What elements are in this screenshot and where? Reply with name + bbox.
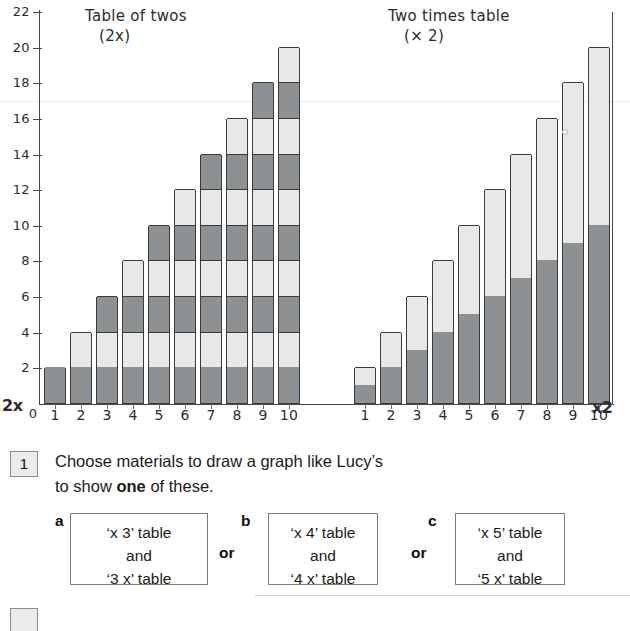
x-axis-label-panel1-6: 6 <box>174 406 196 424</box>
bar-segment <box>71 332 91 368</box>
bar-segment <box>253 367 273 403</box>
bar-panel1-x2 <box>70 333 92 404</box>
bar-segment-lower <box>537 260 557 403</box>
bar-panel2-x1 <box>354 368 376 404</box>
bar-panel2-x5 <box>458 226 480 404</box>
x-axis-label-panel1-3: 3 <box>96 406 118 424</box>
option-a-line2: and <box>71 544 207 567</box>
bar-segment-upper <box>537 118 557 261</box>
option-b-line3: ‘4 x’ table <box>269 567 377 590</box>
bar-segment <box>227 332 247 368</box>
x-axis-label-panel1-5: 5 <box>148 406 170 424</box>
bar-segment <box>149 367 169 403</box>
option-a-line3: ‘3 x’ table <box>71 567 207 590</box>
bar-panel2-x6 <box>484 190 506 404</box>
option-c-box[interactable]: ‘x 5’ table and ‘5 x’ table <box>455 513 565 585</box>
or-separator-2: or <box>411 544 427 562</box>
bar-segment <box>175 332 195 368</box>
bar-segment <box>253 154 273 190</box>
option-b-box[interactable]: ‘x 4’ table and ‘4 x’ table <box>268 513 378 585</box>
bar-segment-lower <box>589 225 609 403</box>
bar-segment <box>279 118 299 154</box>
bar-segment <box>201 367 221 403</box>
x-axis-label-panel2-10: 10 <box>588 406 610 424</box>
bar-panel2-x4 <box>432 261 454 404</box>
bar-segment <box>201 260 221 296</box>
bar-segment <box>253 296 273 332</box>
bar-segment <box>149 296 169 332</box>
bar-segment <box>123 260 143 296</box>
bar-segment-upper <box>355 367 375 385</box>
question-block: 1 Choose materials to draw a graph like … <box>0 445 630 616</box>
question-text-emphasis: one <box>116 477 145 495</box>
bar-segment <box>279 47 299 83</box>
left-axis-tag: 2x <box>2 396 22 415</box>
bar-segment <box>227 225 247 261</box>
bar-panel2-x8 <box>536 119 558 404</box>
option-a-box[interactable]: ‘x 3’ table and ‘3 x’ table <box>70 513 208 585</box>
question-text-line1: Choose materials to draw a graph like Lu… <box>55 452 383 470</box>
x-axis-label-panel1-9: 9 <box>252 406 274 424</box>
bar-segment <box>279 296 299 332</box>
option-b-line1: ‘x 4’ table <box>269 521 377 544</box>
x-axis-label-panel2-5: 5 <box>458 406 480 424</box>
x-axis-label-panel2-3: 3 <box>406 406 428 424</box>
question-number-badge: 1 <box>10 451 38 477</box>
next-question-number-badge <box>10 608 38 631</box>
question-text: Choose materials to draw a graph like Lu… <box>55 449 515 499</box>
bar-panel1-x3 <box>96 297 118 404</box>
bar-segment-lower <box>381 367 401 403</box>
bar-segment <box>149 332 169 368</box>
bar-segment <box>227 367 247 403</box>
bar-segment-lower <box>355 385 375 403</box>
x-axis-line <box>39 404 614 405</box>
bar-segment <box>175 225 195 261</box>
bar-segment <box>253 225 273 261</box>
bar-segment <box>279 82 299 118</box>
bar-segment <box>227 260 247 296</box>
question-text-line2-post: of these. <box>146 477 214 495</box>
bar-panel1-x8 <box>226 119 248 404</box>
bar-segment-upper <box>511 154 531 279</box>
option-b-letter: b <box>241 512 250 530</box>
bar-segment <box>97 332 117 368</box>
x-axis-label-panel1-10: 10 <box>278 406 300 424</box>
x-axis-label-panel1-2: 2 <box>70 406 92 424</box>
bar-panel1-x9 <box>252 83 274 404</box>
bar-segment <box>253 260 273 296</box>
option-a-line1: ‘x 3’ table <box>71 521 207 544</box>
bar-segment-upper <box>589 47 609 225</box>
bar-segment <box>279 154 299 190</box>
option-c-line2: and <box>456 544 564 567</box>
bar-segment <box>253 118 273 154</box>
x-axis-label-panel1-1: 1 <box>44 406 66 424</box>
x-axis-label-panel2-6: 6 <box>484 406 506 424</box>
bar-segment <box>71 367 91 403</box>
bar-panel2-x3 <box>406 297 428 404</box>
bar-segment <box>227 118 247 154</box>
x-axis-label-panel2-7: 7 <box>510 406 532 424</box>
bar-segment <box>279 225 299 261</box>
bar-segment <box>227 296 247 332</box>
bar-segment <box>201 296 221 332</box>
bar-segment <box>97 296 117 332</box>
option-c-letter: c <box>428 512 437 530</box>
bar-segment <box>123 332 143 368</box>
x-axis-label-panel1-4: 4 <box>122 406 144 424</box>
bar-segment-upper <box>381 332 401 368</box>
bar-segment <box>45 367 65 403</box>
bar-segment <box>253 332 273 368</box>
bar-segment-upper <box>563 82 583 242</box>
or-separator-1: or <box>219 544 235 562</box>
bar-segment <box>279 189 299 225</box>
bar-segment <box>227 189 247 225</box>
x-axis-label-panel2-4: 4 <box>432 406 454 424</box>
bar-segment-upper <box>485 189 505 296</box>
bar-segment-lower <box>563 243 583 403</box>
bar-segment <box>201 332 221 368</box>
bar-segment <box>149 225 169 261</box>
bar-segment <box>175 367 195 403</box>
bar-segment <box>123 296 143 332</box>
bar-segment <box>201 189 221 225</box>
option-c-line1: ‘x 5’ table <box>456 521 564 544</box>
